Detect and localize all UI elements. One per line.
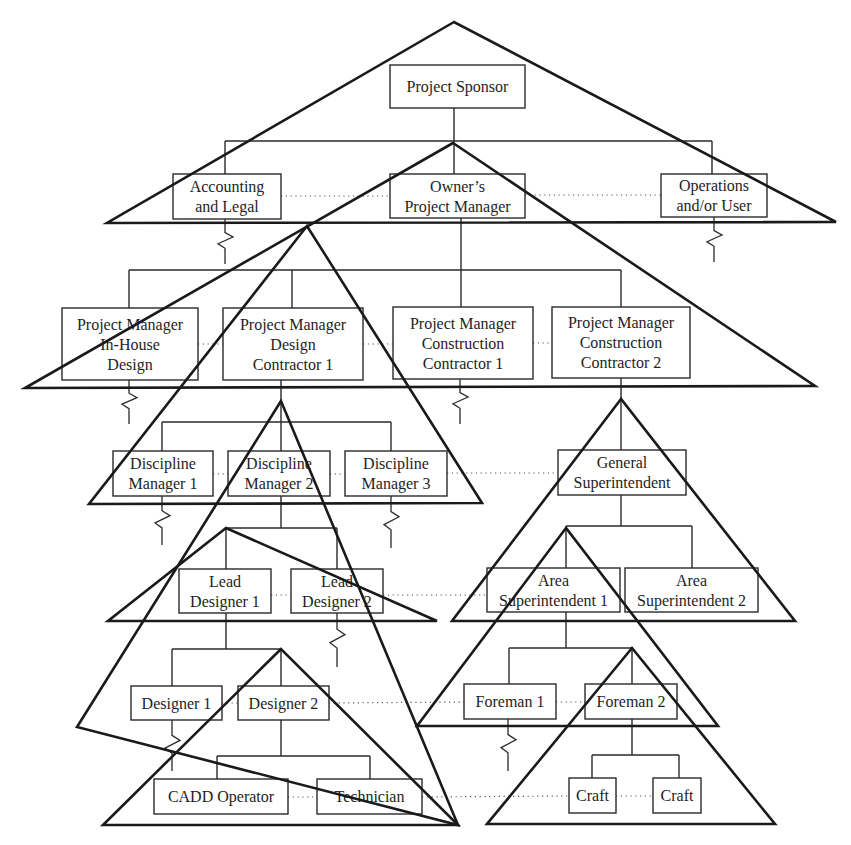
node-accounting-legal: Accountingand Legal <box>173 174 281 219</box>
node-label: Area <box>676 572 707 589</box>
node-label: Area <box>538 572 569 589</box>
node-label: Project Manager <box>410 315 517 333</box>
break-zigzag-icon <box>218 219 233 264</box>
connector-discipline-manager-2 <box>226 496 337 569</box>
node-craft-1: Craft <box>569 778 616 813</box>
node-label: Owner’s <box>430 178 485 195</box>
organization-diagram: Project SponsorAccountingand LegalOwner’… <box>0 0 851 845</box>
node-label: Manager 2 <box>245 475 314 493</box>
node-label: Manager 1 <box>129 475 198 493</box>
node-label: and/or User <box>676 197 752 214</box>
node-label: Foreman 1 <box>476 693 545 710</box>
break-zigzag-icon <box>165 720 180 771</box>
node-lead-designer-1: LeadDesigner 1 <box>179 569 271 613</box>
node-discipline-manager-3: DisciplineManager 3 <box>345 451 447 496</box>
node-label: Design <box>270 336 315 354</box>
node-owners-pm: Owner’sProject Manager <box>390 174 525 218</box>
node-discipline-manager-1: DisciplineManager 1 <box>113 451 213 496</box>
node-label: Operations <box>679 177 749 195</box>
node-pm-inhouse-design: Project ManagerIn-HouseDesign <box>62 308 198 380</box>
node-area-superintendent-2: AreaSuperintendent 2 <box>625 568 758 612</box>
connector-pm-design-contractor-1 <box>162 380 391 451</box>
node-label: Manager 3 <box>362 475 431 493</box>
org-nodes: Project SponsorAccountingand LegalOwner’… <box>62 65 767 814</box>
node-designer-2: Designer 2 <box>238 686 329 720</box>
node-foreman-1: Foreman 1 <box>464 684 556 719</box>
node-label: Craft <box>576 787 609 804</box>
node-label: Contractor 1 <box>253 356 333 373</box>
node-label: Project Manager <box>77 316 184 334</box>
node-label: Superintendent <box>574 474 671 492</box>
node-pm-design-contractor-1: Project ManagerDesignContractor 1 <box>223 308 363 380</box>
break-zigzag-icon <box>707 217 722 262</box>
node-label: General <box>597 454 648 471</box>
node-operations-user: Operationsand/or User <box>661 174 767 217</box>
node-label: Project Manager <box>404 198 511 216</box>
node-label: Designer 1 <box>142 695 212 713</box>
node-cadd-operator: CADD Operator <box>154 779 288 814</box>
node-discipline-manager-2: DisciplineManager 2 <box>228 451 330 496</box>
connector-lead-designer-1 <box>172 613 281 686</box>
triangle-foreman-team <box>487 648 775 824</box>
node-label: Design <box>107 356 152 374</box>
node-project-sponsor: Project Sponsor <box>390 65 525 108</box>
connector-owners-pm <box>129 218 621 308</box>
node-label: Project Manager <box>568 314 675 332</box>
node-label: Discipline <box>246 455 312 473</box>
node-label: In-House <box>100 336 160 353</box>
node-label: Accounting <box>190 178 265 196</box>
node-label: Contractor 1 <box>423 355 503 372</box>
node-label: Craft <box>661 787 694 804</box>
node-label: Contractor 2 <box>581 354 661 371</box>
node-label: Discipline <box>363 455 429 473</box>
connector-area-superintendent-1 <box>509 612 632 684</box>
node-label: Foreman 2 <box>597 693 666 710</box>
node-pm-construction-contractor-2: Project ManagerConstructionContractor 2 <box>552 307 690 378</box>
node-label: Construction <box>422 335 505 352</box>
node-label: and Legal <box>195 198 259 216</box>
node-technician: Technician <box>317 779 422 814</box>
node-pm-construction-contractor-1: Project ManagerConstructionContractor 1 <box>393 307 533 379</box>
node-label: Project Manager <box>240 316 347 334</box>
node-designer-1: Designer 1 <box>131 686 222 720</box>
triangle-lead-designer-team <box>108 528 437 621</box>
node-label: Designer 2 <box>249 695 319 713</box>
peer-link <box>329 702 464 703</box>
node-label: Construction <box>580 334 663 351</box>
node-label: Lead <box>209 573 241 590</box>
node-label: Designer 1 <box>190 593 260 611</box>
node-label: Superintendent 2 <box>637 592 746 610</box>
node-label: CADD Operator <box>168 788 275 806</box>
node-label: Project Sponsor <box>407 78 509 96</box>
node-label: Discipline <box>130 455 196 473</box>
connector-foreman-2 <box>592 719 679 778</box>
node-craft-2: Craft <box>653 778 701 813</box>
peer-link <box>422 796 569 797</box>
connector-general-superintendent <box>566 495 692 568</box>
